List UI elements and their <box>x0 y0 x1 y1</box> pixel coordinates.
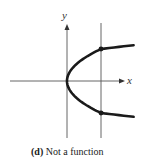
intersection-point <box>99 47 104 52</box>
function-graph: x y <box>0 0 141 161</box>
y-axis-arrow-icon <box>65 24 70 30</box>
figure-caption: (d) Not a function <box>31 146 104 158</box>
caption-text: Not a function <box>46 146 104 157</box>
caption-label: (d) <box>31 146 43 157</box>
y-axis-label: y <box>61 9 67 21</box>
intersection-point <box>99 111 104 116</box>
x-axis-label: x <box>126 74 132 86</box>
x-axis-arrow-icon <box>119 79 125 84</box>
